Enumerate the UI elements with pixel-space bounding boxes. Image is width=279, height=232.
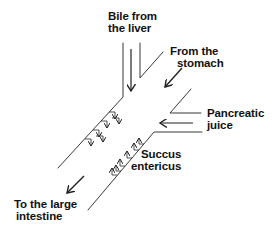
stomach-flow-arrow	[165, 68, 182, 87]
succus-label: Succus entericus	[131, 148, 181, 172]
bile-label-line1: Bile from	[108, 10, 157, 22]
upper-intestine-wall	[58, 43, 123, 168]
exit-flow-arrow	[67, 176, 84, 193]
large-intestine-label-line2: intestine	[14, 210, 77, 222]
pancreatic-duct-upper-wall	[170, 89, 201, 113]
succus-label-line1: Succus	[131, 148, 181, 160]
pancreatic-label-line2: juice	[207, 119, 264, 131]
stomach-label: From the stomach	[170, 45, 224, 69]
large-intestine-label: To the large intestine	[14, 198, 77, 222]
wall-secretion-arrows-upper	[85, 112, 119, 146]
bile-label-line2: the liver	[108, 22, 157, 34]
pancreatic-label-line1: Pancreatic	[207, 107, 264, 119]
large-intestine-label-line1: To the large	[14, 198, 77, 210]
bile-label: Bile from the liver	[108, 10, 157, 34]
stomach-label-line1: From the	[170, 45, 224, 57]
stomach-label-line2: stomach	[170, 57, 224, 69]
succus-label-line2: entericus	[131, 160, 181, 172]
pancreatic-label: Pancreatic juice	[207, 107, 264, 131]
bile-duct-right-wall	[140, 43, 163, 78]
